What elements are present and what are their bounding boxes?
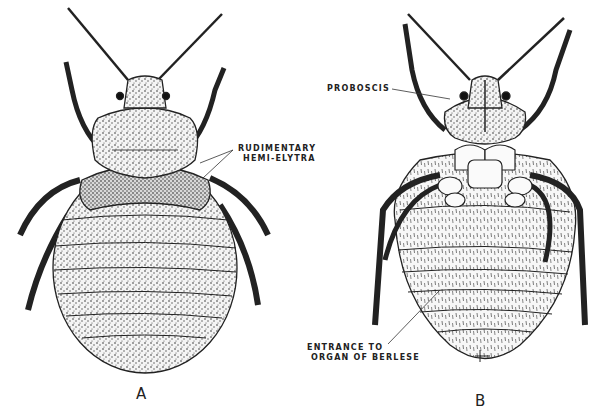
bedbug-figure: RUDIMENTARY HEMI-ELYTRA PROBOSCIS ENTRAN… <box>0 0 597 418</box>
label-proboscis: PROBOSCIS <box>327 84 390 94</box>
panel-letter-b: B <box>475 392 485 410</box>
label-line: RUDIMENTARY <box>238 144 316 154</box>
label-rudimentary-hemi-elytra: RUDIMENTARY HEMI-ELYTRA <box>238 144 316 164</box>
label-organ-of-berlese: ENTRANCE TO ORGAN OF BERLESE <box>307 343 420 363</box>
illustration-svg <box>0 0 597 418</box>
label-line: PROBOSCIS <box>327 84 390 94</box>
bedbug-ventral-view <box>375 14 585 362</box>
panel-letter-a: A <box>136 385 146 403</box>
label-line: ORGAN OF BERLESE <box>307 353 420 363</box>
leader-lines-a <box>200 150 233 178</box>
label-line: HEMI-ELYTRA <box>238 154 316 164</box>
label-line: ENTRANCE TO <box>307 343 420 353</box>
bedbug-dorsal-view <box>20 8 268 373</box>
